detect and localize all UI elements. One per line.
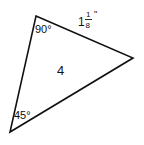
angle-top-label: 90° bbox=[35, 23, 52, 35]
side-denominator: 8 bbox=[86, 21, 91, 30]
side-unit: " bbox=[94, 9, 97, 19]
side-whole: 1 bbox=[78, 15, 85, 29]
angle-bottom-left-label: 45° bbox=[14, 109, 31, 121]
side-numerator: 1 bbox=[86, 10, 91, 19]
center-label: 4 bbox=[57, 63, 64, 78]
triangle-diagram: 90° 45° 4 1 1 8 " bbox=[0, 0, 144, 145]
side-length-label: 1 1 8 " bbox=[78, 9, 97, 30]
